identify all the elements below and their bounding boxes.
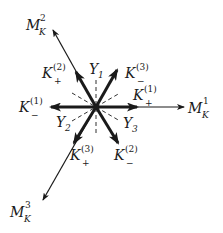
svg-text:1: 1	[203, 96, 209, 106]
label-k-plus-3: K (3) +	[69, 144, 94, 168]
svg-text:−: −	[31, 110, 39, 120]
center-point	[94, 105, 99, 110]
label-y-2: Y 2	[56, 114, 71, 133]
label-k-plus-2: K (2) +	[41, 62, 66, 86]
svg-text:3: 3	[132, 124, 138, 134]
label-k-minus-2: K (2) −	[113, 144, 138, 168]
svg-text:(2): (2)	[125, 144, 138, 154]
label-y-1: Y 1	[89, 61, 104, 80]
svg-text:(2): (2)	[53, 62, 66, 72]
label-k-plus-1: K (1) +	[132, 84, 157, 108]
svg-text:−: −	[126, 158, 134, 168]
svg-text:K: K	[201, 110, 210, 120]
svg-text:K: K	[38, 27, 47, 37]
label-k-minus-3: K (3) −	[124, 62, 149, 86]
label-m-k-1: M 1 K	[187, 96, 210, 120]
svg-text:+: +	[145, 98, 153, 108]
svg-text:(1): (1)	[30, 96, 43, 106]
label-y-3: Y 3	[123, 115, 138, 134]
svg-text:+: +	[54, 76, 62, 86]
label-m-k-3: M 3 K	[9, 200, 32, 224]
arrow-k-plus-3	[74, 107, 96, 143]
arrow-k-plus-2	[76, 72, 96, 107]
svg-text:(3): (3)	[136, 62, 149, 72]
label-m-k-2: M 2 K	[25, 13, 47, 37]
svg-text:+: +	[82, 158, 90, 168]
svg-text:3: 3	[25, 200, 31, 210]
svg-text:M: M	[187, 100, 203, 116]
svg-text:(1): (1)	[144, 84, 157, 94]
label-k-minus-1: K (1) −	[18, 96, 43, 120]
svg-text:K: K	[23, 214, 32, 224]
svg-text:1: 1	[98, 70, 104, 80]
svg-text:(3): (3)	[81, 144, 94, 154]
vector-diagram: M 2 K M 1 K M 3 K K (2) + Y 1 K (3) − K …	[0, 0, 223, 233]
svg-text:2: 2	[40, 13, 46, 23]
svg-text:M: M	[9, 204, 25, 220]
arrow-k-minus-2	[96, 107, 118, 143]
svg-text:2: 2	[64, 123, 71, 133]
